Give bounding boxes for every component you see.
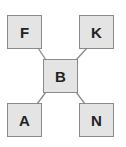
node-label: A — [19, 112, 30, 129]
tree-diagram: F K B A N — [0, 0, 126, 147]
node-label: N — [91, 112, 102, 129]
node-b: B — [43, 59, 78, 93]
node-label: K — [91, 24, 102, 41]
node-n: N — [79, 103, 114, 137]
node-k: K — [79, 15, 114, 49]
node-label: B — [55, 68, 66, 85]
node-label: F — [20, 24, 29, 41]
node-f: F — [7, 15, 42, 49]
node-a: A — [7, 103, 42, 137]
